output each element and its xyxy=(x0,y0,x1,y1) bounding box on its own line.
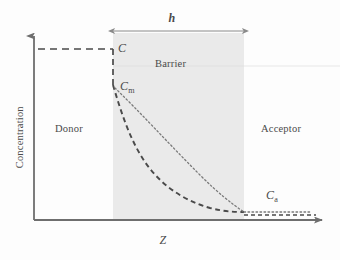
donor-region-label: Donor xyxy=(55,124,83,135)
membrane-concentration-label: Cm xyxy=(120,80,135,96)
acceptor-region-label: Acceptor xyxy=(261,124,301,135)
acceptor-concentration-subscript: a xyxy=(274,195,278,204)
barrier-region-label: Barrier xyxy=(155,59,186,70)
y-axis-label: Concentration xyxy=(15,89,26,185)
donor-concentration-label: C xyxy=(118,42,126,54)
barrier-thickness-label: h xyxy=(169,12,176,24)
membrane-concentration-subscript: m xyxy=(128,86,134,95)
x-axis-label: Z xyxy=(160,234,167,246)
concentration-profile-figure: h C Cm Ca Barrier Donor Acceptor Concent… xyxy=(0,0,340,260)
acceptor-concentration-symbol: C xyxy=(266,188,274,202)
acceptor-concentration-label: Ca xyxy=(266,189,278,205)
membrane-concentration-symbol: C xyxy=(120,79,128,93)
